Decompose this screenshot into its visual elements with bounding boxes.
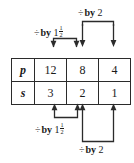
- fraction-denominator: 2: [60, 129, 64, 135]
- cell-p-1: 12: [35, 59, 67, 82]
- annotation-whole-bottom-left: 1: [55, 124, 60, 135]
- table-row: p 12 8 4: [12, 59, 131, 82]
- cell-s-1: 3: [35, 82, 67, 105]
- cell-s-2: 2: [67, 82, 99, 105]
- cell-s-3: 1: [99, 82, 131, 105]
- row-header-s: s: [12, 82, 35, 105]
- cell-p-3: 4: [99, 59, 131, 82]
- connector-bottom-left: [49, 103, 83, 119]
- annotation-word-bottom-left: by: [42, 124, 53, 135]
- fraction-bottom-left: 12: [60, 122, 64, 135]
- connector-bottom-right: [77, 103, 119, 143]
- connector-top-left: [48, 37, 82, 48]
- cell-p-2: 8: [67, 59, 99, 82]
- annotation-whole-top-right: 2: [98, 7, 103, 18]
- annotation-word-bottom-right: by: [86, 144, 97, 155]
- annotation-label-bottom-left: ÷by 112: [35, 122, 64, 135]
- annotation-label-top-left: ÷by 112: [34, 25, 63, 38]
- divide-icon: ÷: [34, 27, 40, 38]
- fraction-top-left: 12: [59, 25, 63, 38]
- annotation-label-top-right: ÷by 2: [78, 8, 103, 18]
- annotation-word-top-right: by: [85, 7, 96, 18]
- connector-top-right: [77, 20, 119, 48]
- diagram-canvas: p 12 8 4 s 3 2 1 ÷by: [0, 0, 134, 163]
- annotation-word-top-left: by: [41, 27, 52, 38]
- ratio-table: p 12 8 4 s 3 2 1: [11, 58, 131, 105]
- fraction-denominator: 2: [59, 32, 63, 38]
- divide-icon: ÷: [35, 124, 41, 135]
- divide-icon: ÷: [78, 7, 84, 18]
- annotation-whole-bottom-right: 2: [99, 144, 104, 155]
- annotation-label-bottom-right: ÷by 2: [79, 145, 104, 155]
- annotation-whole-top-left: 1: [54, 27, 59, 38]
- table-row: s 3 2 1: [12, 82, 131, 105]
- row-header-p: p: [12, 59, 35, 82]
- divide-icon: ÷: [79, 144, 85, 155]
